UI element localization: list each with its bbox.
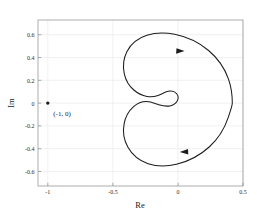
x-tick-label: -1 (45, 189, 50, 195)
x-tick-label: -0.5 (108, 189, 118, 195)
x-tick-label: 0 (177, 189, 180, 195)
x-axis-title: Re (135, 200, 145, 210)
nyquist-plot-figure: 0.6 0.4 0.2 0 -0.2 -0.4 -0.6 -1 -0.5 0 0… (0, 0, 257, 219)
critical-point-marker (46, 101, 49, 104)
direction-arrow-lower (180, 149, 189, 154)
y-tick-label: 0.4 (27, 55, 35, 61)
direction-arrow-upper (176, 48, 185, 53)
critical-point-label: (-1, 0) (53, 110, 71, 118)
plot-canvas: 0.6 0.4 0.2 0 -0.2 -0.4 -0.6 -1 -0.5 0 0… (0, 0, 257, 219)
y-tick-label: 0.6 (27, 32, 35, 38)
y-tick-label: -0.2 (25, 123, 35, 129)
x-axis-ticks (48, 183, 243, 186)
y-tick-label: -0.6 (25, 169, 35, 175)
x-axis-tick-labels: -1 -0.5 0 0.5 (45, 189, 246, 195)
y-tick-label: 0 (32, 101, 35, 107)
y-axis-tick-labels: 0.6 0.4 0.2 0 -0.2 -0.4 -0.6 (25, 32, 35, 175)
y-axis-title: Im (6, 98, 16, 108)
y-tick-label: -0.4 (25, 146, 35, 152)
y-tick-label: 0.2 (27, 78, 35, 84)
x-tick-label: 0.5 (239, 189, 247, 195)
y-axis-ticks (38, 35, 41, 172)
